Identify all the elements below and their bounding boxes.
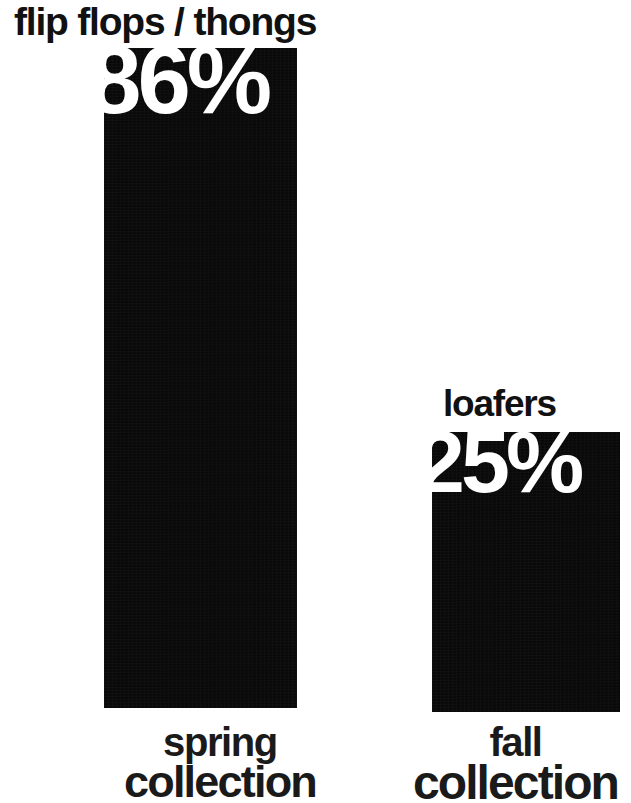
axis-label-fall-line2: collection (400, 761, 631, 803)
bar-spring-collection: 86% (104, 48, 297, 708)
bar-fill-spring (104, 48, 297, 708)
category-title-loafers: loafers (443, 385, 556, 422)
axis-label-fall-collection: fall collection (400, 724, 631, 803)
category-title-flip-flops: flip flops / thongs (14, 2, 316, 41)
axis-label-spring-collection: spring collection (60, 724, 380, 802)
bar-fall-collection: 25% (432, 432, 620, 712)
bar-value-label-spring: 86% (104, 48, 268, 128)
bar-value-label-fall: 25% (432, 432, 580, 506)
axis-label-spring-line2: collection (60, 761, 380, 802)
